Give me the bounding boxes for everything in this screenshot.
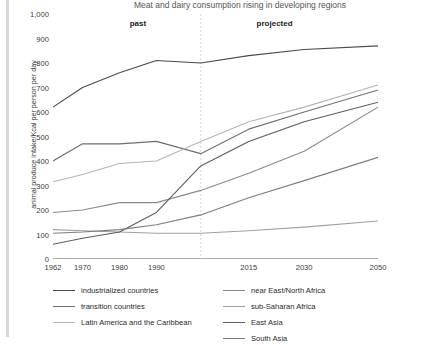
legend-item: East Asia [223, 314, 393, 330]
legend-item: sub-Saharan Africa [223, 298, 393, 314]
y-tick-label: 700 [3, 83, 49, 92]
legend-item-label: sub-Saharan Africa [251, 302, 316, 311]
left-accent-rule [6, 0, 9, 337]
x-tick-label: 1980 [99, 263, 139, 272]
legend-item-label: South Asia [251, 334, 287, 343]
legend-swatch-icon [53, 322, 75, 323]
series-line [53, 107, 378, 212]
legend-item: Latin America and the Caribbean [53, 314, 223, 330]
legend-item-label: transition countries [81, 302, 145, 311]
legend-item-label: near East/North Africa [251, 286, 325, 295]
x-tick-label: 2030 [284, 263, 324, 272]
y-tick-label: 300 [3, 181, 49, 190]
legend-swatch-icon [223, 290, 245, 291]
series-line [53, 90, 378, 161]
x-tick-label: 2015 [229, 263, 269, 272]
x-tick-label: 2050 [358, 263, 398, 272]
legend-item: South Asia [223, 330, 393, 345]
plot-area: 01002003004005006007008009001,000 196219… [53, 14, 378, 259]
period-label: past [130, 19, 146, 28]
legend-item-label: East Asia [251, 318, 283, 327]
legend-item-label: industrialized countries [81, 286, 158, 295]
y-tick-label: 600 [3, 108, 49, 117]
legend-swatch-icon [223, 322, 245, 323]
legend-column-2: near East/North Africa sub-Saharan Afric… [223, 282, 393, 345]
legend-item-label: Latin America and the Caribbean [81, 318, 192, 327]
legend-item: industrialized countries [53, 282, 223, 298]
chart-title: Meat and dairy consumption rising in dev… [60, 0, 420, 12]
y-tick-label: 800 [3, 59, 49, 68]
x-tick-label: 1990 [136, 263, 176, 272]
legend-swatch-icon [53, 290, 75, 291]
legend-column-1: industrialized countries transition coun… [53, 282, 223, 330]
legend-swatch-icon [223, 306, 245, 307]
data-series [53, 46, 378, 244]
x-tick-label: 1970 [63, 263, 103, 272]
y-tick-label: 1,000 [3, 10, 49, 19]
y-tick-label: 200 [3, 206, 49, 215]
chart-legend: industrialized countries transition coun… [53, 282, 393, 330]
series-line [53, 85, 378, 182]
y-tick-label: 400 [3, 157, 49, 166]
plot-svg [53, 14, 378, 259]
period-label: projected [257, 19, 293, 28]
series-line [53, 46, 378, 107]
y-tick-label: 900 [3, 34, 49, 43]
legend-swatch-icon [53, 306, 75, 307]
y-tick-label: 100 [3, 230, 49, 239]
legend-item: near East/North Africa [223, 282, 393, 298]
y-tick-label: 500 [3, 132, 49, 141]
series-line [53, 221, 378, 233]
legend-swatch-icon [223, 338, 245, 339]
legend-item: transition countries [53, 298, 223, 314]
